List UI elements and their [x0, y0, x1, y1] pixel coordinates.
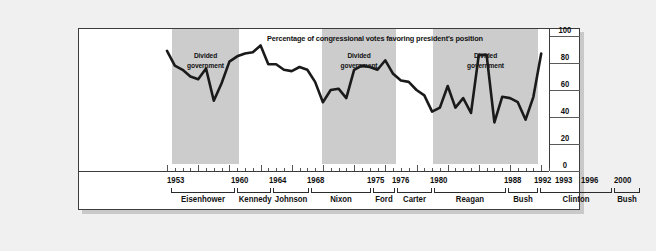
president-term-bracket: [434, 188, 506, 193]
x-axis-tick: [417, 165, 418, 171]
y-axis-tick: [550, 144, 580, 145]
y-axis-tick: [550, 90, 580, 91]
president-label: Ford: [374, 194, 394, 204]
x-axis-line: [79, 171, 549, 172]
x-axis-tick: [206, 168, 207, 171]
year-label: 1953: [167, 175, 184, 185]
y-axis-tick: [550, 171, 580, 172]
x-axis-tick: [526, 168, 527, 171]
year-label: 2000: [614, 175, 631, 185]
x-axis-tick: [237, 168, 238, 171]
x-axis-tick: [292, 165, 293, 171]
x-axis-tick: [346, 168, 347, 171]
x-axis-tick: [175, 168, 176, 171]
president-term-bracket: [237, 188, 271, 193]
president-term-bracket: [311, 188, 371, 193]
x-axis-tick: [253, 168, 254, 171]
president-label: Reagan: [438, 194, 503, 204]
president-label: Kennedy: [239, 194, 270, 204]
x-axis-tick: [362, 168, 363, 171]
x-axis-tick: [487, 168, 488, 171]
x-axis-tick: [245, 168, 246, 171]
x-axis-tick: [502, 168, 503, 171]
x-axis-tick: [190, 168, 191, 171]
president-term-bracket: [273, 188, 309, 193]
x-axis-tick: [222, 168, 223, 171]
year-label: 1968: [307, 175, 324, 185]
x-axis-tick: [323, 165, 324, 171]
president-label: Bush: [510, 194, 537, 204]
president-term-bracket: [373, 188, 395, 193]
chart-title: Percentage of congressional votes favori…: [267, 34, 483, 43]
year-label: 1992: [534, 175, 551, 185]
x-axis-tick: [167, 165, 168, 171]
x-axis-tick: [440, 168, 441, 171]
y-axis-tick: [550, 63, 580, 64]
x-axis-tick: [354, 165, 355, 171]
x-axis-tick: [471, 168, 472, 171]
x-axis-tick: [300, 168, 301, 171]
x-axis-tick: [378, 168, 379, 171]
x-axis-tick: [307, 168, 308, 171]
x-axis-tick: [432, 168, 433, 171]
president-term-bracket: [614, 188, 640, 193]
x-axis-tick: [315, 168, 316, 171]
year-label: 1964: [269, 175, 286, 185]
x-axis-tick: [198, 165, 199, 171]
x-axis-tick: [510, 165, 511, 171]
y-axis: 020406080100: [549, 29, 579, 171]
x-axis-tick: [549, 168, 550, 171]
president-label: Bush: [615, 194, 638, 204]
x-axis-tick: [533, 168, 534, 171]
year-label: 1980: [430, 175, 447, 185]
president-term-bracket: [508, 188, 538, 193]
y-axis-tick: [550, 36, 580, 37]
president-term-bracket: [171, 188, 235, 193]
x-axis-tick: [268, 168, 269, 171]
x-axis-tick: [183, 168, 184, 171]
year-label: 1988: [504, 175, 521, 185]
year-label: 1993: [555, 175, 572, 185]
x-axis-tick: [479, 165, 480, 171]
year-label: 1975: [367, 175, 384, 185]
y-axis-label: 60: [553, 79, 576, 89]
data-line: [79, 29, 549, 164]
x-axis-tick: [463, 168, 464, 171]
x-axis-tick: [541, 165, 542, 171]
y-axis-label: 40: [553, 106, 576, 116]
x-axis-tick: [339, 168, 340, 171]
x-axis-tick: [401, 168, 402, 171]
x-axis-tick: [229, 165, 230, 171]
plot-area: DividedgovernmentDividedgovernmentDivide…: [79, 29, 549, 164]
y-axis-label: 20: [553, 133, 576, 143]
y-axis-label: 80: [553, 52, 576, 62]
x-axis-tick: [494, 168, 495, 171]
x-axis-tick: [455, 168, 456, 171]
year-label: 1976: [392, 175, 409, 185]
president-term-bracket: [397, 188, 432, 193]
x-axis-tick: [518, 168, 519, 171]
president-label: Clinton: [544, 194, 609, 204]
x-axis-tick: [276, 168, 277, 171]
president-label: Carter: [399, 194, 431, 204]
year-label: 1996: [581, 175, 598, 185]
x-axis-tick: [284, 168, 285, 171]
president-label: Nixon: [314, 194, 368, 204]
president-term-bracket: [540, 188, 612, 193]
x-axis-tick: [448, 165, 449, 171]
x-axis-tick: [370, 168, 371, 171]
y-axis-label: 0: [553, 160, 576, 170]
chart-frame: DividedgovernmentDividedgovernmentDivide…: [78, 28, 580, 210]
x-axis-tick: [214, 168, 215, 171]
x-axis-tick: [409, 168, 410, 171]
x-axis-tick: [424, 168, 425, 171]
x-axis-tick: [385, 165, 386, 171]
x-axis-tick: [393, 168, 394, 171]
x-axis-tick: [331, 168, 332, 171]
y-axis-tick: [550, 117, 580, 118]
president-label: Eisenhower: [174, 194, 232, 204]
y-axis-label: 100: [553, 25, 576, 35]
x-axis-tick: [261, 165, 262, 171]
president-label: Johnson: [275, 194, 307, 204]
vote-percentage-series: [167, 45, 541, 122]
